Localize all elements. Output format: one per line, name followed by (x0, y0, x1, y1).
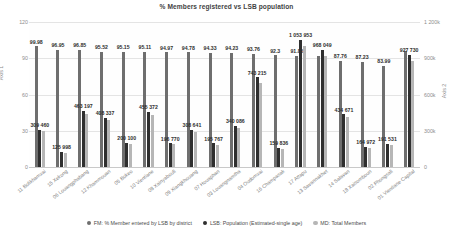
bar-lsb[interactable] (190, 130, 193, 167)
y-axis-left-title: Axis 1 (0, 66, 4, 81)
bar-md[interactable] (346, 117, 349, 167)
bar-value-label: 93.76 (247, 47, 260, 52)
plot-area: 99.98309 46096.95125 99896.85463 19795.5… (29, 22, 420, 167)
bar-lsb[interactable] (147, 112, 150, 167)
y-axis-left-tick: 30 (22, 128, 28, 134)
bar-value-label: 191 531 (378, 137, 397, 142)
bar-value-label: 94.97 (160, 46, 173, 51)
bar-lsb[interactable] (408, 55, 411, 167)
bar-value-label: 92.3 (270, 49, 280, 54)
bar-lsb[interactable] (256, 77, 259, 167)
bar-lsb[interactable] (299, 40, 302, 167)
bar-value-label: 83.99 (377, 59, 390, 64)
bar-md[interactable] (303, 46, 306, 167)
bar-value-label: 408 337 (96, 111, 115, 116)
bar-value-label: 95.11 (139, 45, 152, 50)
bar-lsb[interactable] (277, 148, 280, 167)
bar-lsb[interactable] (169, 143, 172, 167)
bar-md[interactable] (107, 120, 110, 167)
bar-group: 99.98309 460 (35, 22, 45, 167)
bar-value-label: 434 671 (335, 108, 354, 113)
bar-value-label: 1 053 953 (289, 33, 312, 38)
bar-group: 95.15200 100 (122, 22, 132, 167)
bar-md[interactable] (42, 131, 45, 167)
chart-container: % Members registered vs LSB population 9… (0, 0, 453, 242)
bar-md[interactable] (64, 153, 67, 167)
y-axis-right-tick: 1 200k (424, 19, 440, 25)
bar-value-label: 463 197 (74, 104, 93, 109)
bar-md[interactable] (411, 61, 414, 167)
bar-group: 87.76434 671 (339, 22, 349, 167)
bar-lsb[interactable] (212, 143, 215, 167)
bar-md[interactable] (172, 144, 175, 167)
bar-value-label: 927 730 (400, 48, 419, 53)
y-axis-right-tick: 900k (424, 55, 436, 61)
legend-item-lsb[interactable]: LSB: Population (Estimated-single age) (203, 220, 302, 226)
bar-lsb[interactable] (82, 111, 85, 167)
bar-md[interactable] (194, 132, 197, 167)
bar-value-label: 95.15 (117, 45, 130, 50)
legend-swatch-lsb (203, 221, 208, 226)
bar-lsb[interactable] (60, 152, 63, 167)
bar-fm[interactable] (317, 56, 320, 167)
bar-fm[interactable] (122, 52, 125, 167)
bar-lsb[interactable] (364, 147, 367, 167)
bar-md[interactable] (129, 144, 132, 167)
bar-lsb[interactable] (38, 130, 41, 167)
bar-value-label: 96.95 (51, 43, 64, 48)
bar-md[interactable] (368, 148, 371, 167)
y-axis-right-title: Axis 2 (441, 84, 447, 99)
bar-lsb[interactable] (104, 118, 107, 167)
bar-md[interactable] (281, 149, 284, 167)
bar-value-label: 340 086 (226, 119, 245, 124)
y-axis-left-tick: 0 (25, 164, 28, 170)
bar-md[interactable] (151, 115, 154, 167)
y-axis-left-tick: 60 (22, 92, 28, 98)
bar-lsb[interactable] (125, 143, 128, 167)
bar-group: 91.851 053 953 (295, 22, 305, 167)
bar-md[interactable] (216, 145, 219, 167)
bar-value-label: 96.85 (73, 43, 86, 48)
bar-fm[interactable] (187, 52, 190, 167)
bar-value-label: 308 641 (183, 123, 202, 128)
bar-value-label: 87.76 (334, 54, 347, 59)
bar-value-label: 95.52 (95, 45, 108, 50)
bar-fm[interactable] (165, 52, 168, 167)
bar-md[interactable] (85, 114, 88, 167)
bar-fm[interactable] (361, 62, 364, 167)
bar-group: 94.97196 770 (165, 22, 175, 167)
bar-value-label: 455 372 (139, 105, 158, 110)
y-axis-left-tick: 90 (22, 55, 28, 61)
bar-fm[interactable] (35, 46, 38, 167)
y-axis-left-tick: 120 (19, 19, 28, 25)
bar-fm[interactable] (209, 53, 212, 167)
bar-lsb[interactable] (234, 126, 237, 167)
bar-md[interactable] (390, 145, 393, 167)
legend-swatch-md (313, 221, 318, 226)
bar-value-label: 200 100 (117, 136, 136, 141)
bar-fm[interactable] (339, 61, 342, 167)
bar-fm[interactable] (382, 66, 385, 167)
bar-fm[interactable] (295, 56, 298, 167)
bar-lsb[interactable] (321, 50, 324, 167)
legend-swatch-fm (87, 221, 92, 226)
bar-fm[interactable] (274, 55, 277, 167)
y-axis-right-tick: 300k (424, 128, 436, 134)
bar-md[interactable] (324, 56, 327, 167)
bar-value-label: 968 049 (313, 43, 332, 48)
bar-value-label: 164 972 (356, 140, 375, 145)
bar-md[interactable] (259, 83, 262, 167)
bar-group: 96.95125 998 (56, 22, 66, 167)
bar-group: 94.33195 767 (209, 22, 219, 167)
chart-title: % Members registered vs LSB population (0, 3, 453, 10)
bar-fm[interactable] (230, 53, 233, 167)
bar-fm[interactable] (404, 51, 407, 167)
bar-group: 96.85463 197 (78, 22, 88, 167)
bar-value-label: 125 998 (52, 145, 71, 150)
bar-lsb[interactable] (342, 114, 345, 167)
bar-md[interactable] (237, 128, 240, 167)
legend-item-fm[interactable]: FM: % Member entered by LSB by district (87, 220, 192, 226)
bar-lsb[interactable] (386, 144, 389, 167)
bar-value-label: 743 215 (248, 71, 267, 76)
legend-item-md[interactable]: MD: Total Members (313, 220, 366, 226)
